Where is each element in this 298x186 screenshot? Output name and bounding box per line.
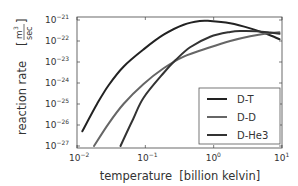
legend-label-d-he3: D-He3 bbox=[237, 130, 268, 141]
legend: D-TD-DD-He3 bbox=[199, 88, 280, 144]
x-axis-label: temperature [billion kelvin] bbox=[100, 169, 260, 183]
y-tick-label: 10−26 bbox=[45, 118, 69, 130]
y-tick-label: 10−27 bbox=[45, 139, 69, 151]
x-tick-label: 100 bbox=[206, 151, 221, 163]
y-unit-bracket-left: [ bbox=[15, 42, 29, 47]
y-axis-label: reaction rate bbox=[15, 61, 29, 135]
y-axis-label-group: reaction rate [ m 3 sec ] bbox=[12, 19, 34, 135]
y-unit-denominator: sec bbox=[25, 27, 34, 41]
y-tick-label: 10−21 bbox=[45, 13, 69, 25]
chart: 10−2110−2210−2310−2410−2510−2610−27 10−2… bbox=[0, 0, 298, 186]
y-tick-label: 10−24 bbox=[45, 76, 69, 88]
x-tick-label: 10−1 bbox=[137, 151, 157, 163]
y-unit-numerator-exp: 3 bbox=[12, 26, 19, 30]
x-tick-label: 101 bbox=[274, 151, 289, 163]
y-unit-bracket-right: ] bbox=[15, 19, 29, 24]
y-tick-label: 10−25 bbox=[45, 97, 69, 109]
x-tick-label: 10−2 bbox=[69, 151, 89, 163]
y-tick-label: 10−22 bbox=[45, 34, 69, 46]
legend-label-d-t: D-T bbox=[237, 94, 254, 105]
y-unit-numerator: m bbox=[14, 30, 24, 39]
legend-label-d-d: D-D bbox=[237, 112, 256, 123]
y-tick-label: 10−23 bbox=[45, 55, 69, 67]
